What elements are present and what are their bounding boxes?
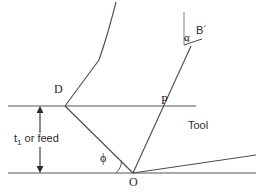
chip-curve-path [99,2,116,60]
diagram-canvas [0,0,264,196]
label-point-p: P [161,94,168,106]
label-tool: Tool [188,120,208,131]
label-point-o: O [129,176,138,188]
tool-flank-face-line [133,155,256,173]
label-shear-angle-phi: ϕ [100,152,106,164]
shear-plane-line [65,106,133,173]
shear-angle-arc [116,161,122,173]
label-point-d: D [54,83,63,95]
orthogonal-cutting-diagram: D P O B´ α ϕ Tool t1 or feed [0,0,264,196]
label-rake-angle-alpha: α [184,32,190,43]
label-point-b-prime: B´ [196,25,207,36]
label-feed-thickness: t1 or feed [14,133,59,147]
chip-inner-edge-line [65,60,99,106]
tool-rake-face-line [133,46,191,173]
feed-suffix: or feed [22,132,59,144]
